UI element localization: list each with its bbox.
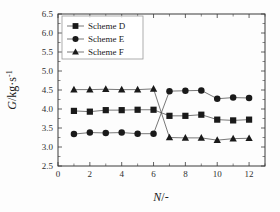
- data-point: [214, 117, 220, 123]
- data-point: [214, 95, 221, 102]
- svg-text:N/-: N/-: [152, 190, 168, 204]
- data-point: [166, 113, 172, 119]
- y-tick-label: 3.0: [42, 142, 54, 152]
- y-tick-label: 6.0: [42, 28, 54, 38]
- line-chart: 024681012 2.53.03.54.04.55.05.56.06.5 Sc…: [0, 0, 280, 212]
- x-tick-label: 6: [151, 169, 156, 179]
- data-point: [246, 117, 252, 123]
- data-point: [118, 129, 125, 136]
- legend-label: Scheme F: [88, 47, 124, 57]
- x-tick-label: 12: [245, 169, 254, 179]
- y-tick-label: 5.0: [42, 66, 54, 76]
- y-tick-label: 4.5: [42, 85, 54, 95]
- y-tick-label: 4.0: [42, 104, 54, 114]
- data-point: [135, 107, 141, 113]
- data-point: [150, 107, 156, 113]
- data-point: [198, 112, 204, 118]
- y-tick-label: 6.5: [42, 9, 54, 19]
- data-point: [87, 109, 93, 115]
- data-point: [246, 95, 253, 102]
- legend-marker-circle-icon: [72, 36, 78, 42]
- y-tick-label: 2.5: [42, 161, 54, 171]
- x-tick-label: 4: [119, 169, 124, 179]
- x-tick-label: 10: [213, 169, 223, 179]
- y-axis-tick-labels: 2.53.03.54.04.55.05.56.06.5: [42, 9, 54, 171]
- x-tick-label: 0: [56, 169, 61, 179]
- data-point: [198, 87, 205, 94]
- x-tick-label: 2: [88, 169, 93, 179]
- y-tick-label: 5.5: [42, 47, 54, 57]
- y-tick-label: 3.5: [42, 123, 54, 133]
- data-point: [134, 130, 141, 137]
- legend-marker-square-icon: [73, 23, 79, 29]
- data-point: [71, 131, 78, 138]
- legend-label: Scheme D: [88, 21, 126, 31]
- chart-figure: 024681012 2.53.03.54.04.55.05.56.06.5 Sc…: [0, 0, 280, 212]
- data-point: [230, 117, 236, 123]
- data-point: [150, 130, 157, 137]
- data-point: [119, 107, 125, 113]
- data-point: [103, 130, 110, 137]
- chart-legend: Scheme DScheme EScheme F: [62, 16, 143, 59]
- data-point: [166, 88, 173, 95]
- x-axis-title: N/-: [152, 190, 168, 204]
- data-point: [103, 107, 109, 113]
- data-point: [182, 88, 189, 95]
- data-point: [71, 108, 77, 114]
- data-point: [87, 129, 94, 136]
- data-point: [182, 113, 188, 119]
- x-tick-label: 8: [183, 169, 188, 179]
- data-point: [230, 94, 237, 101]
- legend-label: Scheme E: [88, 34, 125, 44]
